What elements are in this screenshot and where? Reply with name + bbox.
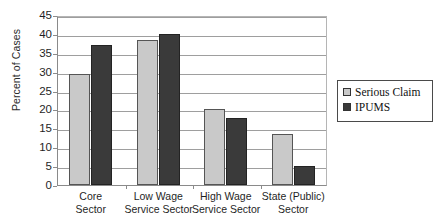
x-axis-label-line: Service Sector	[192, 203, 260, 216]
bar	[226, 118, 247, 185]
y-axis-tick-label: 20	[22, 104, 52, 115]
y-axis-tick-label: 45	[22, 10, 52, 21]
x-axis-label-line: Core	[57, 190, 125, 203]
y-axis-tick-label: 40	[22, 29, 52, 40]
x-axis-label-line: Sector	[57, 203, 125, 216]
y-axis-tick-mark	[53, 16, 57, 17]
legend-label: IPUMS	[355, 101, 390, 113]
x-axis-category-label: Low WageService Sector	[125, 190, 193, 216]
y-axis-tick-mark	[53, 186, 57, 187]
bar	[204, 109, 225, 185]
x-axis-category-labels: CoreSectorLow WageService SectorHigh Wag…	[57, 190, 327, 224]
bar	[69, 74, 90, 185]
x-axis-category-label: High WageService Sector	[192, 190, 260, 216]
y-axis-tick-mark	[53, 73, 57, 74]
chart-legend: Serious ClaimIPUMS	[337, 80, 433, 122]
bar-group	[58, 17, 126, 185]
x-axis-category-label: CoreSector	[57, 190, 125, 216]
legend-label: Serious Claim	[355, 86, 421, 98]
x-axis-label-line: Sector	[260, 203, 328, 216]
y-axis-tick-mark	[53, 167, 57, 168]
legend-item: IPUMS	[343, 101, 427, 113]
x-axis-tick-mark	[261, 185, 262, 189]
legend-item: Serious Claim	[343, 86, 427, 98]
y-axis-tick-label: 10	[22, 142, 52, 153]
bar	[91, 45, 112, 185]
plot-area	[57, 16, 327, 186]
y-axis-tick-label: 25	[22, 86, 52, 97]
x-axis-label-line: State (Public)	[260, 190, 328, 203]
bar-group	[193, 17, 261, 185]
y-axis-tick-label: 15	[22, 123, 52, 134]
x-axis-tick-mark	[126, 185, 127, 189]
bar	[272, 134, 293, 185]
y-axis-tick-mark	[53, 110, 57, 111]
bar-chart: Percent of Cases 454035302520151050 Core…	[0, 0, 437, 224]
bar-group	[261, 17, 329, 185]
y-axis-tick-mark	[53, 54, 57, 55]
bar	[294, 166, 315, 185]
x-axis-label-line: Service Sector	[125, 203, 193, 216]
bar-group	[126, 17, 194, 185]
y-axis-tick-mark	[53, 35, 57, 36]
y-axis-tick-mark	[53, 129, 57, 130]
legend-swatch	[343, 88, 351, 96]
y-axis-tick-labels: 454035302520151050	[22, 16, 52, 186]
y-axis-tick-mark	[53, 148, 57, 149]
y-axis-tick-label: 30	[22, 67, 52, 78]
x-axis-label-line: High Wage	[192, 190, 260, 203]
y-axis-title: Percent of Cases	[10, 10, 22, 130]
legend-swatch	[343, 103, 351, 111]
bar-series-layer	[58, 17, 326, 185]
x-axis-tick-mark	[193, 185, 194, 189]
x-axis-category-label: State (Public)Sector	[260, 190, 328, 216]
y-axis-tick-label: 0	[22, 180, 52, 191]
y-axis-tick-label: 35	[22, 48, 52, 59]
y-axis-tick-label: 5	[22, 161, 52, 172]
x-axis-label-line: Low Wage	[125, 190, 193, 203]
bar	[137, 40, 158, 185]
bar	[159, 34, 180, 185]
y-axis-tick-mark	[53, 92, 57, 93]
